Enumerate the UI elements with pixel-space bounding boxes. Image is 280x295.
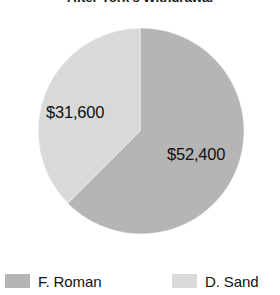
legend-item-d-sand[interactable]: D. Sand [172, 271, 259, 291]
legend-swatch-d-sand [172, 274, 197, 288]
pie-graphic [36, 17, 244, 245]
pie-chart: After York's Withdrawal $31,600 $52,400 … [0, 0, 280, 295]
pie-svg [36, 17, 244, 245]
legend-item-f-roman[interactable]: F. Roman [5, 271, 101, 291]
legend-label-d-sand: D. Sand [205, 273, 259, 290]
pie-slice-value-d-sand: $31,600 [46, 103, 104, 121]
chart-legend: F. Roman D. Sand [0, 271, 280, 293]
legend-swatch-f-roman [5, 274, 30, 288]
legend-label-f-roman: F. Roman [38, 273, 101, 290]
pie-slice-value-f-roman: $52,400 [167, 145, 225, 163]
chart-title: After York's Withdrawal [0, 0, 280, 5]
